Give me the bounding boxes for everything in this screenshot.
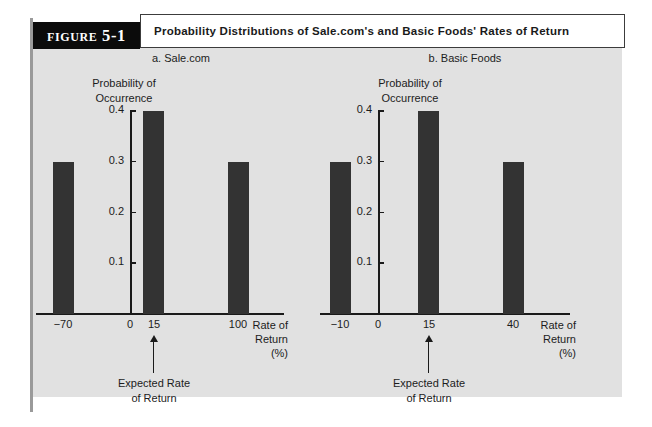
- bar-minus-70: [53, 162, 74, 314]
- plot-area: [320, 110, 610, 314]
- chart-title: b. Basic Foods: [320, 52, 650, 64]
- figure-number-tab: Figure 5-1: [33, 22, 140, 49]
- y-axis-label-line-2: Occurrence: [64, 91, 184, 106]
- x-tick-label-minus-70: −70: [43, 318, 83, 330]
- x-tick-label-0: 0: [358, 318, 398, 330]
- x-tick-label-15: 15: [409, 318, 449, 330]
- y-axis-label-line-1: Probability of: [64, 76, 184, 91]
- figure-page: Figure 5-1 Probability Distributions of …: [0, 0, 652, 427]
- x-axis-label-line-1: Rate of: [230, 318, 288, 332]
- x-tick-label-minus-10: −10: [320, 318, 360, 330]
- expected-return-annotation-line-2: of Return: [349, 391, 509, 406]
- plot-area: [36, 110, 326, 314]
- y-axis-label: Probability of Occurrence: [350, 76, 470, 106]
- x-axis-label: Rate of Return (%): [230, 318, 288, 360]
- figure-title: Probability Distributions of Sale.com's …: [141, 25, 569, 37]
- x-axis-label-line-3: (%): [230, 346, 288, 360]
- x-axis-label-line-1: Rate of: [518, 318, 576, 332]
- figure-number-label: Figure 5-1: [47, 26, 126, 46]
- y-axis-label: Probability of Occurrence: [64, 76, 184, 106]
- bar-100: [228, 162, 249, 314]
- bar-40: [503, 162, 524, 314]
- chart-basic-foods: b. Basic Foods Probability of Occurrence…: [320, 52, 610, 392]
- expected-return-arrow-head: [425, 335, 433, 342]
- x-axis-label-line-3: (%): [518, 346, 576, 360]
- y-axis-label-line-1: Probability of: [350, 76, 470, 91]
- expected-return-annotation: Expected Rate of Return: [349, 376, 509, 406]
- expected-return-arrow-stem: [153, 341, 154, 373]
- bar-15: [143, 111, 164, 314]
- expected-return-annotation-line-2: of Return: [74, 391, 234, 406]
- chart-title: a. Sale.com: [36, 52, 364, 64]
- bar-minus-10: [330, 162, 351, 314]
- x-axis-label-line-2: Return: [518, 332, 576, 346]
- figure-title-box: Probability Distributions of Sale.com's …: [140, 14, 625, 48]
- x-axis-label: Rate of Return (%): [518, 318, 576, 360]
- expected-return-annotation-line-1: Expected Rate: [74, 376, 234, 391]
- expected-return-annotation-line-1: Expected Rate: [349, 376, 509, 391]
- x-tick-label-15: 15: [134, 318, 174, 330]
- x-axis-label-line-2: Return: [230, 332, 288, 346]
- expected-return-arrow-stem: [428, 341, 429, 373]
- expected-return-annotation: Expected Rate of Return: [74, 376, 234, 406]
- expected-return-arrow-head: [150, 335, 158, 342]
- chart-sale-com: a. Sale.com Probability of Occurrence 0.…: [36, 52, 326, 392]
- bar-15: [418, 111, 439, 314]
